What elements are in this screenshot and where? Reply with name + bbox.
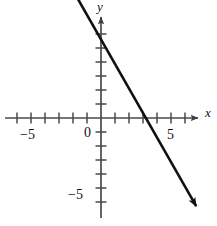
origin-label: 0 <box>84 126 91 140</box>
plotted-line <box>78 0 196 206</box>
graph-figure: x y −5 0 5 −5 <box>0 0 217 226</box>
y-tick-label-neg5: −5 <box>68 188 83 202</box>
y-axis-label: y <box>97 0 103 13</box>
x-tick-label-pos5: 5 <box>167 128 174 142</box>
x-axis-label: x <box>205 106 211 119</box>
x-tick-label-neg5: −5 <box>20 128 35 142</box>
coordinate-plane-svg <box>0 0 217 226</box>
